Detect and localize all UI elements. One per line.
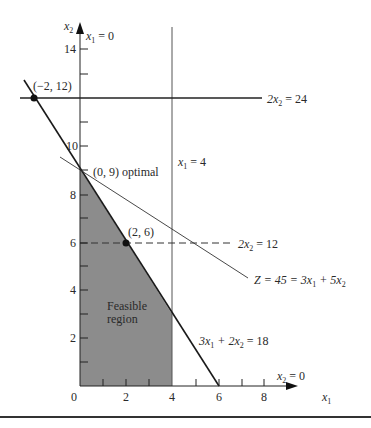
point-neg2-12 bbox=[31, 95, 38, 102]
y-axis-label: x2 bbox=[63, 19, 73, 35]
label-x1-eq-0: x1 = 0 bbox=[85, 29, 114, 45]
label-3x1-2x2-eq-18: 3x1 + 2x2 = 18 bbox=[198, 334, 269, 350]
y-tick-2: 2 bbox=[70, 331, 76, 345]
x1-axis-arrow-icon bbox=[286, 382, 298, 390]
x-axis-label: x1 bbox=[321, 390, 331, 406]
feasible-region bbox=[80, 169, 172, 386]
label-point-neg2-12: (−2, 12) bbox=[33, 79, 72, 93]
x2-axis-arrow-icon bbox=[76, 22, 84, 34]
point-2-6 bbox=[123, 240, 130, 247]
label-2x2-eq-24: 2x2 = 24 bbox=[267, 92, 307, 108]
y-tick-6: 6 bbox=[70, 236, 76, 250]
label-2x2-eq-12: 2x2 = 12 bbox=[238, 237, 278, 253]
label-point-2-6: (2, 6) bbox=[128, 225, 154, 239]
y-tick-10: 10 bbox=[66, 139, 78, 153]
x-tick-8: 8 bbox=[261, 390, 267, 404]
x-tick-4: 4 bbox=[169, 390, 175, 404]
region-label-line1: Feasible bbox=[107, 299, 147, 313]
label-objective: Z = 45 = 3x1 + 5x2 bbox=[254, 273, 346, 289]
y-tick-14: 14 bbox=[64, 42, 76, 56]
y-tick-4: 4 bbox=[70, 283, 76, 297]
x-tick-0: 0 bbox=[71, 390, 77, 404]
label-x1-eq-4: x1 = 4 bbox=[177, 155, 206, 171]
y-tick-8: 8 bbox=[70, 188, 76, 202]
label-x2-eq-0: x2 = 0 bbox=[276, 369, 305, 385]
x-tick-2: 2 bbox=[123, 390, 129, 404]
region-label-line2: region bbox=[107, 312, 138, 326]
x-tick-6: 6 bbox=[216, 390, 222, 404]
lp-graph: 2 4 6 8 10 14 0 2 4 6 8 x2 x1 x1 = 0 x1 … bbox=[0, 0, 371, 428]
label-point-optimal: (0, 9) optimal bbox=[93, 165, 159, 179]
